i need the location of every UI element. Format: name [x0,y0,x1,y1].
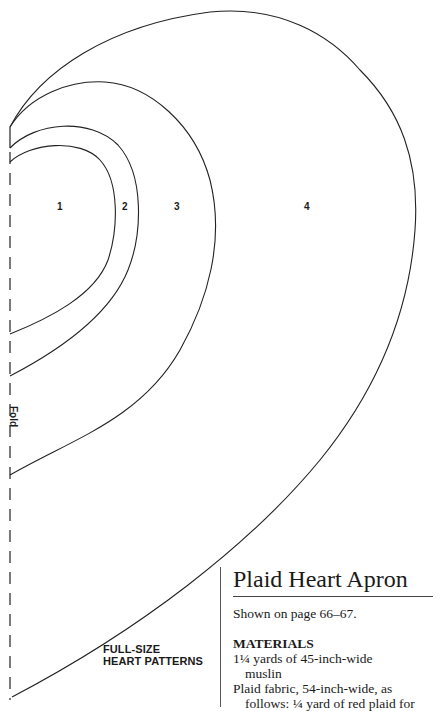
piece-label-4: 4 [304,201,310,212]
materials-heading: MATERIALS [233,636,437,651]
piece-label-1: 1 [57,201,63,212]
article-column: Plaid Heart Apron Shown on page 66–67. M… [233,566,437,711]
shown-on-text: Shown on page 66–67. [233,606,437,622]
caption-line-1: FULL-SIZE [103,643,203,655]
materials-item: 1¼ yards of 45-inch-wide muslin [233,651,437,681]
heart-outline-2 [10,126,138,376]
materials-line-cont: follows: ¼ yard of red plaid for [233,696,437,711]
fold-label-text: Fold [8,406,19,427]
column-divider [220,567,221,707]
article-title: Plaid Heart Apron [233,566,437,592]
fold-label: Fold [8,406,19,427]
materials-item: Plaid fabric, 54-inch-wide, as follows: … [233,681,437,711]
materials-line: Plaid fabric, 54-inch-wide, as [233,681,437,696]
piece-label-3: 3 [174,201,180,212]
piece-label-2: 2 [122,201,128,212]
materials-line: 1¼ yards of 45-inch-wide [233,651,437,666]
materials-line-cont: muslin [233,666,437,681]
pattern-caption: FULL-SIZE HEART PATTERNS [103,643,203,667]
caption-line-2: HEART PATTERNS [103,655,203,667]
title-underline [233,596,433,597]
heart-outline-1 [10,146,115,334]
